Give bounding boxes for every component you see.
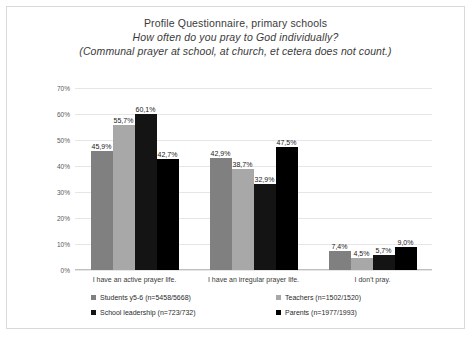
bar-value-label: 45,9%: [92, 143, 112, 150]
bar-group: 45,9%55,7%60,1%42,7%I have an active pra…: [75, 88, 194, 270]
legend-item-parents: Parents (n=1977/1993): [276, 309, 357, 316]
bar-value-label: 4,5%: [354, 250, 370, 257]
bar-value-label: 32,9%: [255, 176, 275, 183]
legend-item-teachers: Teachers (n=1502/1520): [276, 294, 361, 301]
y-axis-tick-label: 50%: [57, 137, 70, 144]
legend-row-1: Students y5-6 (n=5458/5668) Teachers (n=…: [91, 290, 421, 305]
bar-value-label: 9,0%: [398, 239, 414, 246]
bar[interactable]: 9,0%: [395, 247, 417, 270]
bar[interactable]: 47,5%: [276, 147, 298, 271]
x-axis-category-label: I don't pray.: [355, 276, 391, 283]
bar-value-label: 5,7%: [376, 247, 392, 254]
legend-swatch-icon: [276, 310, 281, 315]
legend-swatch-icon: [276, 295, 281, 300]
bar[interactable]: 7,4%: [329, 251, 351, 270]
bar-group: 42,9%38,7%32,9%47,5%I have an irregular …: [194, 88, 313, 270]
y-axis-tick-label: 0%: [61, 267, 70, 274]
bar-value-label: 47,5%: [277, 139, 297, 146]
bar-group: 7,4%4,5%5,7%9,0%I don't pray.: [313, 88, 432, 270]
bar-value-label: 7,4%: [332, 243, 348, 250]
bar[interactable]: 42,9%: [210, 158, 232, 270]
x-axis-category-label: I have an irregular prayer life.: [208, 276, 299, 283]
chart-frame: Profile Questionnaire, primary schools H…: [6, 6, 465, 329]
bar-value-label: 60,1%: [136, 106, 156, 113]
y-axis-tick-label: 10%: [57, 241, 70, 248]
legend-row-2: School leadership (n=723/732) Parents (n…: [91, 305, 421, 320]
x-axis-category-label: I have an active prayer life.: [93, 276, 177, 283]
y-axis-tick-label: 40%: [57, 163, 70, 170]
legend-swatch-icon: [91, 295, 96, 300]
bar[interactable]: 45,9%: [91, 151, 113, 270]
y-axis-tick-label: 70%: [57, 85, 70, 92]
legend-label-teachers: Teachers (n=1502/1520): [285, 294, 361, 301]
legend-label-school-leadership: School leadership (n=723/732): [100, 309, 196, 316]
y-axis-tick-label: 60%: [57, 111, 70, 118]
legend-label-students: Students y5-6 (n=5458/5668): [100, 294, 191, 301]
gridline: [75, 270, 432, 271]
y-axis-tick-label: 30%: [57, 189, 70, 196]
bar[interactable]: 55,7%: [113, 125, 135, 270]
legend-item-students: Students y5-6 (n=5458/5668): [91, 294, 276, 301]
bar[interactable]: 32,9%: [254, 184, 276, 270]
plot-area: 70%60%50%40%30%20%10%0%45,9%55,7%60,1%42…: [75, 88, 432, 270]
bar[interactable]: 60,1%: [135, 114, 157, 270]
y-axis-tick-label: 20%: [57, 215, 70, 222]
bar[interactable]: 4,5%: [351, 258, 373, 270]
bar[interactable]: 42,7%: [157, 159, 179, 270]
legend-label-parents: Parents (n=1977/1993): [285, 309, 357, 316]
bar-value-label: 42,9%: [211, 150, 231, 157]
legend-swatch-icon: [91, 310, 96, 315]
bar[interactable]: 5,7%: [373, 255, 395, 270]
plot-wrapper: 70%60%50%40%30%20%10%0%45,9%55,7%60,1%42…: [7, 7, 466, 330]
chart-legend: Students y5-6 (n=5458/5668) Teachers (n=…: [91, 290, 421, 320]
legend-item-school-leadership: School leadership (n=723/732): [91, 309, 276, 316]
bar-value-label: 42,7%: [158, 151, 178, 158]
bar-value-label: 55,7%: [114, 117, 134, 124]
bar-value-label: 38,7%: [233, 161, 253, 168]
bar[interactable]: 38,7%: [232, 169, 254, 270]
